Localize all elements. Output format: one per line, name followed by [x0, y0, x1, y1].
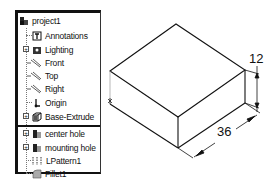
- height-dimension: [245, 66, 259, 112]
- origin-mark: [108, 98, 112, 104]
- length-dimension-value[interactable]: 36: [217, 124, 231, 139]
- graphics-viewport[interactable]: [0, 0, 278, 185]
- height-dimension-value[interactable]: 12: [249, 51, 263, 66]
